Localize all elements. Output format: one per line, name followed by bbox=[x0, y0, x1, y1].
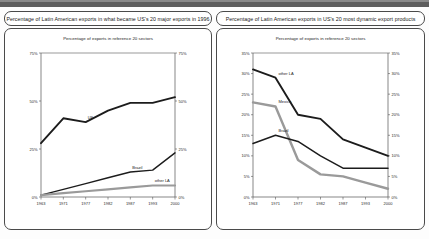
svg-text:10%: 10% bbox=[241, 153, 249, 158]
svg-text:50%: 50% bbox=[179, 99, 187, 104]
chart-left-plot: 0%0%25%25%50%50%75%75%196319711977198219… bbox=[5, 29, 211, 229]
svg-text:10%: 10% bbox=[392, 153, 400, 158]
svg-text:35%: 35% bbox=[241, 51, 249, 56]
panel-right-body: Percentage of exports in reference 20 se… bbox=[216, 28, 425, 230]
svg-text:25%: 25% bbox=[392, 92, 400, 97]
panel-left-body: Percentage of exports in reference 20 se… bbox=[4, 28, 212, 230]
panel-left-title: Percentage of Latin American exports in … bbox=[4, 11, 212, 26]
svg-text:5%: 5% bbox=[244, 174, 250, 179]
svg-text:30%: 30% bbox=[241, 71, 249, 76]
svg-text:US: US bbox=[88, 115, 94, 120]
svg-text:1993: 1993 bbox=[148, 201, 158, 206]
svg-text:30%: 30% bbox=[392, 71, 400, 76]
top-band-highlight bbox=[0, 0, 429, 2]
svg-text:25%: 25% bbox=[29, 147, 37, 152]
svg-text:1982: 1982 bbox=[104, 201, 114, 206]
svg-text:1971: 1971 bbox=[271, 201, 281, 206]
svg-text:Brazil: Brazil bbox=[279, 128, 289, 133]
svg-text:20%: 20% bbox=[241, 112, 249, 117]
svg-text:1987: 1987 bbox=[339, 201, 349, 206]
screenshot-root: Percentage of Latin American exports in … bbox=[0, 0, 429, 239]
svg-text:20%: 20% bbox=[392, 112, 400, 117]
svg-text:2000: 2000 bbox=[384, 201, 394, 206]
svg-text:Mexico: Mexico bbox=[279, 99, 292, 104]
svg-text:0%: 0% bbox=[392, 195, 398, 200]
svg-text:0%: 0% bbox=[179, 195, 185, 200]
svg-text:1971: 1971 bbox=[59, 201, 69, 206]
svg-text:15%: 15% bbox=[241, 133, 249, 138]
svg-text:1977: 1977 bbox=[81, 201, 91, 206]
svg-text:other LA: other LA bbox=[279, 71, 294, 76]
panel-left: Percentage of Latin American exports in … bbox=[4, 11, 212, 230]
svg-text:15%: 15% bbox=[392, 133, 400, 138]
svg-text:0%: 0% bbox=[244, 195, 250, 200]
svg-text:75%: 75% bbox=[29, 51, 37, 56]
svg-text:25%: 25% bbox=[241, 92, 249, 97]
svg-text:1993: 1993 bbox=[361, 201, 371, 206]
svg-text:2000: 2000 bbox=[171, 201, 181, 206]
svg-text:0%: 0% bbox=[32, 195, 38, 200]
svg-text:other LA: other LA bbox=[155, 178, 170, 183]
svg-text:25%: 25% bbox=[179, 147, 187, 152]
svg-text:5%: 5% bbox=[392, 174, 398, 179]
panel-right-title: Percentage of Latin American exports in … bbox=[216, 11, 425, 26]
svg-text:1963: 1963 bbox=[249, 201, 259, 206]
svg-text:1963: 1963 bbox=[37, 201, 47, 206]
chart-right-plot: 0%0%5%5%10%10%15%15%20%20%25%25%30%30%35… bbox=[217, 29, 424, 229]
chart-right: Percentage of exports in reference 20 se… bbox=[217, 29, 424, 229]
svg-text:1987: 1987 bbox=[126, 201, 136, 206]
svg-text:50%: 50% bbox=[29, 99, 37, 104]
chart-left: Percentage of exports in reference 20 se… bbox=[5, 29, 211, 229]
svg-text:75%: 75% bbox=[179, 51, 187, 56]
svg-text:1977: 1977 bbox=[294, 201, 304, 206]
svg-text:35%: 35% bbox=[392, 51, 400, 56]
svg-text:1982: 1982 bbox=[316, 201, 326, 206]
svg-text:Brazil: Brazil bbox=[132, 165, 142, 170]
panel-right: Percentage of Latin American exports in … bbox=[216, 11, 425, 230]
